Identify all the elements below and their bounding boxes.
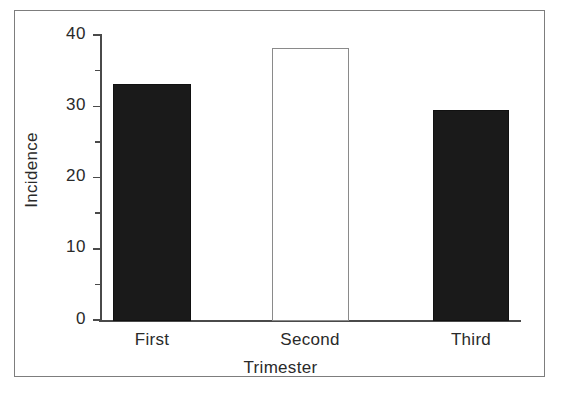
- y-tick-minor-5: [95, 284, 101, 286]
- y-tick-label-10: 10: [66, 238, 86, 255]
- y-tick-30: [93, 106, 101, 108]
- y-tick-label-0: 0: [76, 310, 86, 327]
- y-tick-minor-25: [95, 141, 101, 143]
- bar-first: [113, 84, 191, 321]
- y-tick-minor-15: [95, 212, 101, 214]
- y-tick-label-30: 30: [66, 96, 86, 113]
- bar-third: [433, 110, 509, 321]
- x-axis-label: Trimester: [0, 358, 561, 378]
- y-tick-label-20: 20: [66, 167, 86, 184]
- y-tick-minor-35: [95, 70, 101, 72]
- x-tick-label-first: First: [112, 330, 192, 350]
- y-axis-label: Incidence: [22, 120, 42, 180]
- x-tick-label-second: Second: [270, 330, 350, 350]
- y-axis-label-text: Incidence: [22, 115, 42, 225]
- y-tick-10: [93, 248, 101, 250]
- y-tick-0: [93, 319, 101, 321]
- y-tick-label-40: 40: [66, 25, 86, 42]
- y-tick-20: [93, 177, 101, 179]
- bar-chart-figure: 40 30 20 10 0 First Second Third Trimest…: [0, 0, 561, 393]
- y-tick-40: [93, 34, 101, 36]
- bar-second: [272, 48, 349, 321]
- x-tick-label-third: Third: [431, 330, 511, 350]
